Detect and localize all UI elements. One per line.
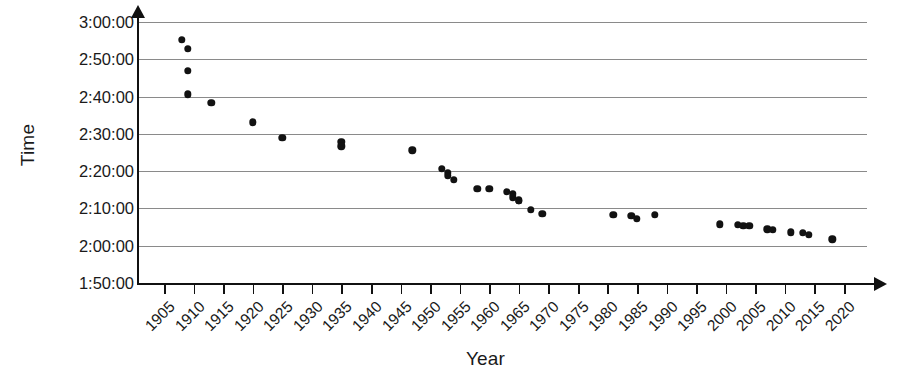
y-axis-tick-label: 2:10:00 <box>42 200 134 217</box>
y-axis-tick-label: 1:50:00 <box>42 275 134 292</box>
data-point <box>249 119 256 126</box>
y-axis-arrow-icon <box>131 5 145 18</box>
y-axis-tick-label: 3:00:00 <box>42 14 134 31</box>
gridline <box>139 208 867 209</box>
data-point <box>633 215 640 222</box>
y-axis-tick-labels: 3:00:002:50:002:40:002:30:002:20:002:10:… <box>42 0 134 381</box>
data-point <box>787 229 794 236</box>
plot-area <box>139 22 867 284</box>
scatter-chart: Time 3:00:002:50:002:40:002:30:002:20:00… <box>0 0 911 381</box>
data-point <box>828 236 835 243</box>
data-point <box>539 210 546 217</box>
y-axis-tick-label: 2:30:00 <box>42 126 134 143</box>
data-point <box>651 211 658 218</box>
data-point <box>716 221 723 228</box>
data-point <box>474 185 481 192</box>
gridline <box>139 22 867 23</box>
gridline <box>139 59 867 60</box>
data-point <box>486 185 493 192</box>
data-point <box>527 206 534 213</box>
gridline <box>139 171 867 172</box>
y-axis-tick-label: 2:50:00 <box>42 51 134 68</box>
y-axis-tick-label: 2:40:00 <box>42 88 134 105</box>
y-axis-tick-label: 2:20:00 <box>42 163 134 180</box>
x-axis-title-label: Year <box>466 348 505 369</box>
data-point <box>769 226 776 233</box>
x-axis-title: Year <box>0 348 911 370</box>
gridline <box>139 246 867 247</box>
data-point <box>184 45 191 52</box>
data-point <box>184 67 191 74</box>
data-point <box>610 211 617 218</box>
y-axis-tick-label: 2:00:00 <box>42 237 134 254</box>
data-point <box>746 222 753 229</box>
data-point <box>279 134 286 141</box>
data-point <box>805 231 812 238</box>
data-point <box>409 147 416 154</box>
data-point <box>515 197 522 204</box>
y-axis-line <box>137 16 139 284</box>
data-point <box>338 142 345 149</box>
gridline <box>139 134 867 135</box>
data-point <box>178 36 185 43</box>
data-point <box>450 176 457 183</box>
data-point <box>208 99 215 106</box>
x-axis-tick <box>164 285 166 294</box>
gridline <box>139 97 867 98</box>
y-axis-title-label: Time <box>17 124 39 166</box>
